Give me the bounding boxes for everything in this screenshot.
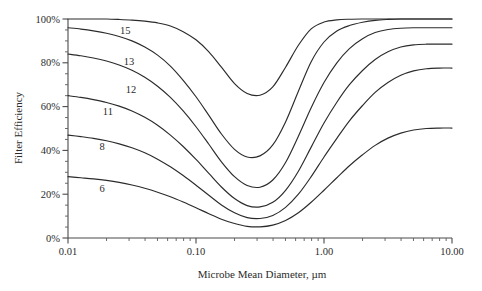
x-tick-label: 10.00 <box>440 246 464 257</box>
curve-series-12 <box>68 28 452 188</box>
x-tick-label: 0.10 <box>187 246 205 257</box>
y-tick-label: 100% <box>36 14 61 25</box>
curve-label-15: 15 <box>120 25 131 36</box>
curve-label-8: 8 <box>100 141 105 152</box>
curve-series-6 <box>68 128 452 227</box>
curve-label-11: 11 <box>103 106 113 117</box>
y-tick-label: 40% <box>41 145 61 156</box>
x-tick-label: 0.01 <box>59 246 77 257</box>
curve-series-11 <box>68 44 452 207</box>
y-tick-label: 60% <box>41 101 61 112</box>
y-tick-label: 0% <box>46 233 60 244</box>
curve-label-6: 6 <box>100 183 105 194</box>
filter-efficiency-chart: 0%20%40%60%80%100% 0.010.101.0010.00 151… <box>0 0 482 291</box>
x-axis-title: Microbe Mean Diameter, µm <box>198 268 327 280</box>
y-axis: 0%20%40%60%80%100% <box>36 14 69 244</box>
curve-label-13: 13 <box>124 56 135 67</box>
y-tick-label: 20% <box>41 189 61 200</box>
y-tick-label: 80% <box>41 57 61 68</box>
x-tick-label: 1.00 <box>315 246 333 257</box>
curve-label-12: 12 <box>126 84 137 95</box>
x-axis: 0.010.101.0010.00 <box>59 238 464 257</box>
y-axis-title: Filter Efficiency <box>12 91 24 164</box>
curve-series-group <box>68 19 452 227</box>
curve-labels-group: 1513121186 <box>100 25 137 194</box>
chart-figure: 0%20%40%60%80%100% 0.010.101.0010.00 151… <box>0 0 482 291</box>
